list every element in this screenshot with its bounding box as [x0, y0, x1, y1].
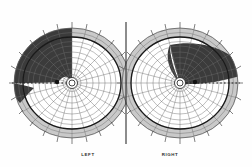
visual-field-figure: LEFT RIGHT	[0, 0, 252, 167]
perimetry-chart	[0, 0, 252, 167]
left-eye-label: LEFT	[68, 152, 108, 157]
right-blind-spot	[193, 80, 197, 84]
left-fixation-inner-ring	[69, 80, 75, 86]
perimetry-svg	[0, 0, 252, 167]
right-fixation-inner-ring	[177, 80, 183, 86]
left-blind-spot	[55, 80, 59, 84]
right-eye-label: RIGHT	[150, 152, 190, 157]
